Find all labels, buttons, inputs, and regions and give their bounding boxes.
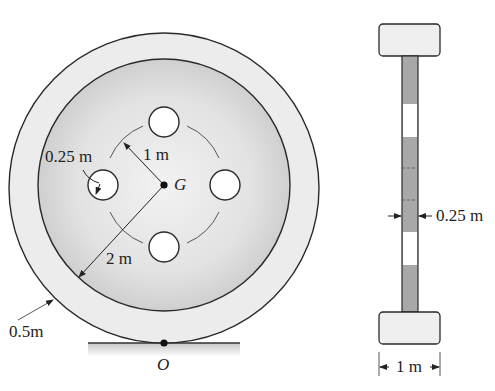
side-rim-top [379,24,440,56]
label-center-g: G [174,176,186,193]
side-rim-bottom [379,312,440,344]
center-point-g [160,181,167,188]
side-view [379,24,440,376]
hole-top [149,107,179,137]
hole-bottom [149,232,179,262]
side-web [402,56,418,312]
label-inner-radius: 2 m [106,250,132,267]
label-rim-thickness: 0.5m [9,323,43,340]
label-rim-width: 1 m [394,358,424,375]
diagram-svg [0,0,495,391]
diagram-canvas: 0.25 m 1 m G 2 m 0.5m O 0.25 m 1 m [0,0,495,391]
contact-point-o [160,339,167,346]
label-web-thickness: 0.25 m [436,207,483,224]
label-hole-radius: 0.25 m [45,148,92,165]
hole-right [210,170,240,200]
label-contact-o: O [157,356,169,373]
label-hole-circle-radius: 1 m [143,146,169,163]
hole-left [88,170,118,200]
dim-rim-leader [18,300,53,320]
